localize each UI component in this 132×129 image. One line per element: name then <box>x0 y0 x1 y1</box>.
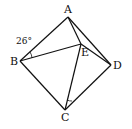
segment-ae <box>68 17 81 44</box>
label-b: B <box>10 55 18 68</box>
label-d: D <box>113 59 122 72</box>
label-e: E <box>81 46 89 59</box>
angle-label: 26° <box>16 36 32 46</box>
geometry-diagram: A B C D E 26° <box>0 0 132 129</box>
segment-cd <box>65 65 111 110</box>
segment-bc <box>20 61 65 110</box>
segment-da <box>68 17 111 65</box>
label-c: C <box>61 111 69 124</box>
angle-arc-b <box>30 52 32 58</box>
label-a: A <box>64 3 72 16</box>
